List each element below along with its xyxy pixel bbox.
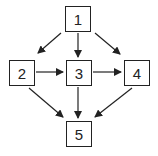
node-3: 3 xyxy=(66,60,92,86)
edge-2-5 xyxy=(29,88,63,117)
edge-4-5 xyxy=(95,88,132,117)
node-5-label: 5 xyxy=(75,126,83,143)
node-4-label: 4 xyxy=(133,65,141,82)
node-1: 1 xyxy=(65,6,91,32)
node-1-label: 1 xyxy=(74,11,82,28)
node-2-label: 2 xyxy=(18,65,26,82)
edge-1-2 xyxy=(38,33,61,53)
node-4: 4 xyxy=(124,60,150,86)
edge-1-4 xyxy=(95,33,120,54)
node-2: 2 xyxy=(9,60,35,86)
node-5: 5 xyxy=(66,121,92,147)
node-3-label: 3 xyxy=(75,65,83,82)
